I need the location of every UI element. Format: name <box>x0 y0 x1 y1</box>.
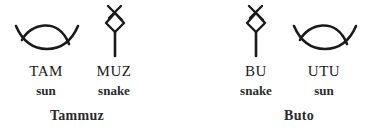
meaning-snake: snake <box>226 83 286 99</box>
meaning-sun: sun <box>16 83 76 99</box>
reading-muz: MUZ <box>84 63 144 80</box>
meaning-sun: sun <box>294 83 354 99</box>
meaning-snake: snake <box>84 83 144 99</box>
sun-sign-icon <box>292 18 358 54</box>
group-name-tammuz: Tammuz <box>27 108 127 124</box>
sun-sign-icon <box>14 18 80 54</box>
group-name-buto: Buto <box>249 108 349 124</box>
reading-bu: BU <box>226 63 286 80</box>
reading-utu: UTU <box>294 63 354 80</box>
snake-sign-icon <box>102 4 128 58</box>
reading-tam: TAM <box>16 63 76 80</box>
snake-sign-icon <box>243 4 269 58</box>
